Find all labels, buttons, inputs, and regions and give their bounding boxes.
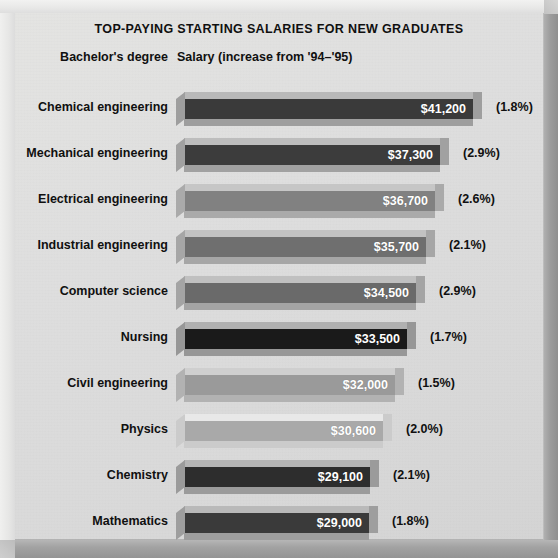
bar-bottom-face [184,441,383,448]
bar-category-label: Physics [0,422,168,436]
bar-category-label: Civil engineering [0,376,168,390]
bar: $29,100 [176,460,379,494]
bar-row: Industrial engineering$35,700(2.1%) [0,226,558,266]
bar-increase-label: (1.5%) [418,376,455,390]
bar-bottom-face [184,349,407,356]
bar-increase-label: (2.9%) [463,146,500,160]
bar-row: Chemical engineering$41,200(1.8%) [0,88,558,128]
bar-bottom-face [184,303,416,310]
bar-increase-label: (1.8%) [496,100,533,114]
bar-right-face [383,414,392,448]
bar-top-face [184,184,444,191]
bar-category-label: Electrical engineering [0,192,168,206]
bar-category-label: Industrial engineering [0,238,168,252]
bar-bottom-face [184,395,395,402]
bar-bottom-face [184,165,440,172]
bar-top-face [184,460,379,467]
bar-right-face [407,322,416,356]
bar-value-label: $37,300 [388,145,433,165]
bar-row: Chemistry$29,100(2.1%) [0,456,558,496]
bar-bottom-face [184,257,426,264]
bar-top-face [184,230,435,237]
bar-value-label: $30,600 [331,421,376,441]
bar-right-face [416,276,425,310]
bar: $33,500 [176,322,416,356]
bar-increase-label: (1.7%) [430,330,467,344]
bar-category-label: Chemical engineering [0,100,168,114]
chart-plate: TOP-PAYING STARTING SALARIES FOR NEW GRA… [0,0,558,558]
bar-row: Electrical engineering$36,700(2.6%) [0,180,558,220]
bar-top-face [184,322,416,329]
bar: $41,200 [176,92,482,126]
bar-value-label: $41,200 [421,99,466,119]
bar-value-label: $29,100 [318,467,363,487]
bar-right-face [370,460,379,494]
bar-row: Mathematics$29,000(1.8%) [0,502,558,542]
bar-right-face [426,230,435,264]
bar-right-face [395,368,404,402]
bar-row: Physics$30,600(2.0%) [0,410,558,450]
bar-top-face [184,506,378,513]
bar-increase-label: (2.1%) [393,468,430,482]
bar-right-face [440,138,449,172]
bar-bottom-face [184,533,369,540]
bar-value-label: $34,500 [364,283,409,303]
bar-category-label: Mechanical engineering [0,146,168,160]
bar-bottom-face [184,119,473,126]
bar-category-label: Mathematics [0,514,168,528]
bar-value-label: $35,700 [374,237,419,257]
bar-right-face [473,92,482,126]
bar-increase-label: (2.0%) [406,422,443,436]
bar-category-label: Chemistry [0,468,168,482]
bar-category-label: Nursing [0,330,168,344]
bar-value-label: $36,700 [383,191,428,211]
bar: $32,000 [176,368,404,402]
bar-top-face [184,92,482,99]
bar-top-face [184,368,404,375]
bar-row: Computer science$34,500(2.9%) [0,272,558,312]
bar-value-label: $29,000 [317,513,362,533]
bar-category-label: Computer science [0,284,168,298]
bar-rows: Chemical engineering$41,200(1.8%)Mechani… [0,0,558,558]
bar-top-face [184,276,425,283]
bar-top-face [184,414,392,421]
bar-value-label: $33,500 [355,329,400,349]
bar-increase-label: (2.1%) [449,238,486,252]
bar-right-face [435,184,444,218]
bar: $36,700 [176,184,444,218]
bar: $35,700 [176,230,435,264]
bar-right-face [369,506,378,540]
bar-top-face [184,138,449,145]
bar: $34,500 [176,276,425,310]
bar-row: Civil engineering$32,000(1.5%) [0,364,558,404]
bar: $29,000 [176,506,378,540]
bar-value-label: $32,000 [343,375,388,395]
bar-row: Nursing$33,500(1.7%) [0,318,558,358]
bar-increase-label: (2.6%) [458,192,495,206]
bar-increase-label: (2.9%) [439,284,476,298]
bar-increase-label: (1.8%) [392,514,429,528]
bar-bottom-face [184,211,435,218]
bar: $37,300 [176,138,449,172]
bar: $30,600 [176,414,392,448]
bar-bottom-face [184,487,370,494]
bar-row: Mechanical engineering$37,300(2.9%) [0,134,558,174]
